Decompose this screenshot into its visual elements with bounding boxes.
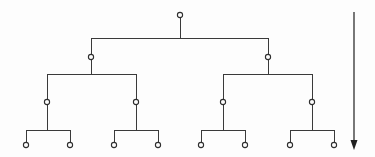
depth-direction-arrow bbox=[351, 12, 358, 150]
tree-node-level3-4[interactable] bbox=[309, 99, 314, 104]
tree-node-root[interactable] bbox=[177, 12, 182, 17]
binary-tree-diagram bbox=[0, 0, 375, 157]
tree-node-leaf-8[interactable] bbox=[331, 142, 336, 147]
tree-node-level2-right[interactable] bbox=[265, 54, 270, 59]
tree-node-leaf-1[interactable] bbox=[23, 142, 28, 147]
tree-node-level3-3[interactable] bbox=[220, 99, 225, 104]
tree-node-leaf-2[interactable] bbox=[67, 142, 72, 147]
tree-node-leaf-3[interactable] bbox=[111, 142, 116, 147]
tree-node-leaf-7[interactable] bbox=[287, 142, 292, 147]
tree-node-leaf-5[interactable] bbox=[198, 142, 203, 147]
tree-node-level3-2[interactable] bbox=[133, 99, 138, 104]
tree-node-leaf-6[interactable] bbox=[242, 142, 247, 147]
tree-edges-group bbox=[26, 15, 334, 145]
arrow-down-icon bbox=[351, 140, 358, 150]
tree-node-level3-1[interactable] bbox=[44, 99, 49, 104]
tree-node-leaf-4[interactable] bbox=[155, 142, 160, 147]
tree-node-level2-left[interactable] bbox=[88, 54, 93, 59]
tree-svg-canvas bbox=[0, 0, 375, 157]
